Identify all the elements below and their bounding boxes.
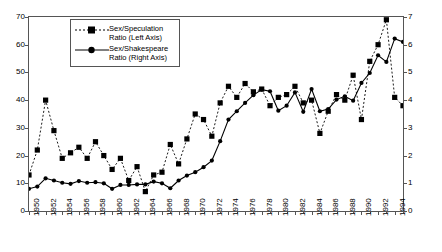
y-tick-label-left-10: 10 xyxy=(3,178,25,187)
data-point-marker xyxy=(102,181,106,185)
legend-label-shakespeare-line1: Sex/Shakespeare xyxy=(109,44,168,53)
y-tick-mark xyxy=(404,72,407,73)
x-tick-mark xyxy=(345,211,346,215)
data-point-marker xyxy=(334,92,339,97)
y-tick-label-left-0: 0 xyxy=(3,206,25,215)
data-point-marker xyxy=(85,156,90,161)
data-point-marker xyxy=(243,101,247,105)
data-point-marker xyxy=(68,150,73,155)
y-tick-mark xyxy=(404,100,407,101)
x-tick-mark xyxy=(95,211,96,215)
x-tick-mark xyxy=(29,211,30,215)
y-tick-mark xyxy=(25,128,28,129)
legend-item-shakespeare: Sex/Shakespeare Ratio (Right Axis) xyxy=(75,44,174,62)
y-tick-label-right-6: 6 xyxy=(408,40,430,49)
y-tick-label-left-20: 20 xyxy=(3,151,25,160)
x-tick-mark xyxy=(162,211,163,215)
x-tick-label-1954: 1954 xyxy=(65,198,74,216)
data-point-marker xyxy=(184,136,189,141)
x-tick-label-1950: 1950 xyxy=(32,198,41,216)
x-tick-mark xyxy=(228,211,229,215)
x-tick-label-1970: 1970 xyxy=(198,198,207,216)
data-point-marker xyxy=(392,95,397,100)
y-tick-label-right-7: 7 xyxy=(408,12,430,21)
x-tick-label-1968: 1968 xyxy=(182,198,191,216)
x-tick-mark xyxy=(46,211,47,215)
data-point-marker xyxy=(51,128,56,133)
data-point-marker xyxy=(29,187,31,191)
data-point-marker xyxy=(301,100,306,105)
y-tick-mark xyxy=(25,45,28,46)
data-point-marker xyxy=(43,98,48,103)
data-point-marker xyxy=(260,88,264,92)
x-tick-label-1972: 1972 xyxy=(215,198,224,216)
x-tick-mark xyxy=(378,211,379,215)
y-tick-mark xyxy=(25,211,28,212)
data-point-marker xyxy=(393,37,397,41)
x-tick-mark xyxy=(62,211,63,215)
x-tick-mark xyxy=(179,211,180,215)
data-point-marker xyxy=(185,173,189,177)
data-point-marker xyxy=(60,156,65,161)
data-point-marker xyxy=(309,87,313,91)
x-tick-mark xyxy=(395,211,396,215)
chart-container: Sex/Speculation Ratio (Left Axis) Sex/Sh… xyxy=(0,0,442,252)
data-point-marker xyxy=(359,81,363,85)
data-point-marker xyxy=(218,100,223,105)
data-point-marker xyxy=(368,71,372,75)
data-point-marker xyxy=(384,60,388,64)
x-tick-mark xyxy=(328,211,329,215)
y-tick-label-right-0: 0 xyxy=(408,206,430,215)
y-tick-mark xyxy=(404,183,407,184)
x-tick-label-1978: 1978 xyxy=(265,198,274,216)
data-point-marker xyxy=(118,156,123,161)
legend-item-speculation: Sex/Speculation Ratio (Left Axis) xyxy=(75,24,174,42)
data-point-marker xyxy=(29,172,32,177)
data-point-marker xyxy=(118,183,122,187)
x-tick-label-1988: 1988 xyxy=(348,198,357,216)
x-tick-label-1956: 1956 xyxy=(82,198,91,216)
data-point-marker xyxy=(276,109,280,113)
data-point-marker xyxy=(35,185,39,189)
x-tick-label-1966: 1966 xyxy=(165,198,174,216)
data-point-marker xyxy=(68,182,72,186)
y-tick-mark xyxy=(25,156,28,157)
data-point-marker xyxy=(76,145,81,150)
data-point-marker xyxy=(177,178,181,182)
data-point-marker xyxy=(326,107,330,111)
data-point-marker xyxy=(126,178,131,183)
data-point-marker xyxy=(127,183,131,187)
data-point-marker xyxy=(318,109,322,113)
x-tick-label-1976: 1976 xyxy=(248,198,257,216)
data-point-marker xyxy=(317,131,322,136)
data-point-marker xyxy=(242,81,247,86)
x-tick-mark xyxy=(295,211,296,215)
legend-label-speculation-line1: Sex/Speculation xyxy=(109,24,163,33)
y-tick-label-right-3: 3 xyxy=(408,123,430,132)
data-point-marker xyxy=(101,153,106,158)
y-tick-mark xyxy=(404,156,407,157)
data-point-marker xyxy=(134,164,139,169)
legend-key-dashed-square xyxy=(75,24,109,36)
legend-label-shakespeare: Sex/Shakespeare Ratio (Right Axis) xyxy=(109,44,168,62)
y-tick-label-right-2: 2 xyxy=(408,151,430,160)
data-point-marker xyxy=(218,139,222,143)
data-point-marker xyxy=(168,142,173,147)
x-tick-mark xyxy=(212,211,213,215)
y-tick-label-right-5: 5 xyxy=(408,67,430,76)
data-point-marker xyxy=(226,84,231,89)
x-tick-label-1974: 1974 xyxy=(231,198,240,216)
data-point-marker xyxy=(285,104,289,108)
x-tick-label-1952: 1952 xyxy=(49,198,58,216)
data-point-marker xyxy=(384,17,389,22)
data-point-marker xyxy=(301,110,305,114)
y-tick-mark xyxy=(25,100,28,101)
data-point-marker xyxy=(201,165,205,169)
data-point-marker xyxy=(268,89,272,93)
y-tick-mark xyxy=(25,183,28,184)
x-tick-label-1982: 1982 xyxy=(298,198,307,216)
data-point-marker xyxy=(251,93,255,97)
data-point-marker xyxy=(351,73,356,78)
data-point-marker xyxy=(226,117,230,121)
data-point-marker xyxy=(143,189,148,194)
